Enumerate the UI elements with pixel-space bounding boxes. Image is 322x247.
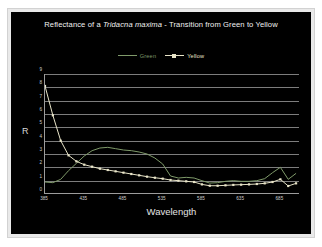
data-series-layer [45,74,300,194]
x-tick-label: 535 [158,196,166,201]
series-line-yellow [45,86,296,186]
y-tick-label: 4 [33,134,42,140]
series-marker-yellow [115,170,117,172]
y-tick-label: 2 [33,160,42,166]
series-marker-yellow [256,183,258,185]
x-axis-title: Wavelength [44,206,299,217]
series-marker-yellow [271,181,273,183]
series-marker-yellow [83,164,85,166]
y-axis-ticks: 0123456789 [33,70,42,198]
chart-title-prefix: Reflectance of a [44,20,103,29]
legend-item-yellow[interactable]: Yellow [165,52,204,59]
legend-label-green: Green [140,53,157,59]
legend-item-green[interactable]: Green [118,52,157,59]
series-marker-yellow [264,182,266,184]
plot-area [44,74,299,194]
series-marker-yellow [193,181,195,183]
series-marker-yellow [107,169,109,171]
chart-title-species: Tridacna maxima [103,20,162,29]
series-marker-yellow [217,185,219,187]
legend-swatch-yellow-icon [165,52,184,59]
series-marker-yellow [287,185,289,187]
series-marker-yellow [295,182,297,184]
x-tick-label: 485 [119,196,127,201]
series-marker-yellow [99,168,101,170]
series-marker-yellow [185,180,187,182]
chart-title-suffix: - Transition from Green to Yellow [162,20,278,29]
chart-panel: Reflectance of a Tridacna maxima - Trans… [11,12,311,234]
series-marker-yellow [232,184,234,186]
series-marker-yellow [224,184,226,186]
y-tick-label: 6 [33,107,42,113]
series-marker-yellow [122,172,124,174]
x-tick-label: 685 [276,196,284,201]
series-marker-yellow [91,166,93,168]
y-tick-label: 5 [33,120,42,126]
plot-area-wrapper: R 0123456789 385435485535585635685 Wavel… [44,74,299,202]
y-axis-title: R [22,126,29,136]
x-tick-label: 385 [40,196,48,201]
chart-legend: Green Yellow [11,52,311,59]
x-tick-label: 635 [236,196,244,201]
y-tick-label: 0 [33,187,42,193]
series-marker-yellow [248,183,250,185]
series-marker-yellow [169,179,171,181]
chart-title: Reflectance of a Tridacna maxima - Trans… [29,20,293,30]
chart-page: Reflectance of a Tridacna maxima - Trans… [0,0,322,247]
series-marker-yellow [67,154,69,156]
series-marker-yellow [52,114,54,116]
series-marker-yellow [209,185,211,187]
x-tick-label: 585 [197,196,205,201]
series-marker-yellow [146,176,148,178]
series-marker-yellow [45,85,46,87]
series-marker-yellow [162,178,164,180]
x-tick-label: 435 [79,196,87,201]
series-marker-yellow [75,160,77,162]
y-tick-label: 1 [33,174,42,180]
y-tick-label: 9 [33,67,42,73]
legend-swatch-green-icon [118,52,137,59]
series-marker-yellow [154,177,156,179]
x-axis-ticks: 385435485535585635685 [44,196,299,206]
series-marker-yellow [138,174,140,176]
series-marker-yellow [279,178,281,180]
y-tick-label: 8 [33,80,42,86]
y-tick-label: 7 [33,94,42,100]
series-marker-yellow [177,180,179,182]
series-marker-yellow [60,140,62,142]
series-marker-yellow [240,184,242,186]
series-line-green [45,147,296,183]
y-tick-label: 3 [33,147,42,153]
series-marker-yellow [201,183,203,185]
series-marker-yellow [130,173,132,175]
legend-label-yellow: Yellow [187,53,204,59]
